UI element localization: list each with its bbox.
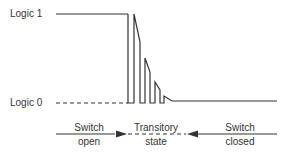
phase-switch-open-line2: open [78, 136, 100, 148]
phase-switch-open-line1: Switch [74, 122, 103, 134]
phase-switch-closed-line1: Switch [225, 122, 254, 134]
phase-transitory-line1: Transitory [134, 122, 178, 134]
phase-transitory-line2: state [145, 136, 167, 148]
arrow-right-icon [116, 131, 127, 138]
phase-switch-closed-line2: closed [226, 136, 255, 148]
arrow-left-icon [187, 131, 198, 138]
bounce-pulses [128, 14, 277, 103]
